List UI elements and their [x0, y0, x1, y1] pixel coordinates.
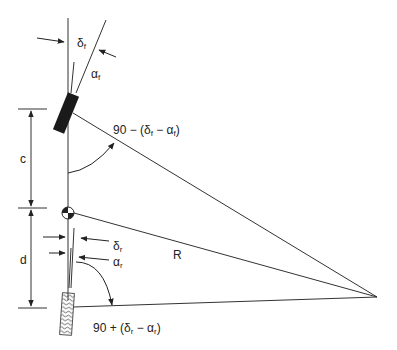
front-wheel-heading-line: [76, 20, 106, 93]
rear-velocity-line: [69, 248, 71, 288]
label-d: d: [20, 254, 27, 266]
label-rear-angle: 90 + (δr − αr): [93, 322, 161, 336]
delta-f-arrow-right: [99, 50, 116, 57]
delta-r-arrow-right: [81, 238, 109, 241]
front-velocity-line: [71, 62, 74, 93]
label-alpha-f: αf: [91, 68, 100, 82]
rear-wheel: [60, 293, 75, 336]
label-front-angle: 90 − (δf − αf): [113, 124, 180, 138]
label-alpha-r: αr: [113, 256, 123, 270]
steering-geometry-diagram: [0, 0, 397, 350]
rear-angle-arc: [76, 262, 112, 305]
rear-radius-line: [73, 297, 377, 307]
label-delta-r: δr: [113, 240, 122, 254]
front-wheel: [53, 92, 79, 134]
label-c: c: [20, 153, 26, 165]
alpha-r-arrow-right: [79, 257, 109, 260]
rear-heading-line: [71, 228, 74, 288]
label-R: R: [173, 249, 182, 261]
front-angle-arc: [68, 143, 114, 173]
delta-f-arrow-left: [37, 38, 64, 42]
label-delta-f: δf: [77, 37, 86, 51]
center-of-gravity-icon: [62, 207, 74, 219]
